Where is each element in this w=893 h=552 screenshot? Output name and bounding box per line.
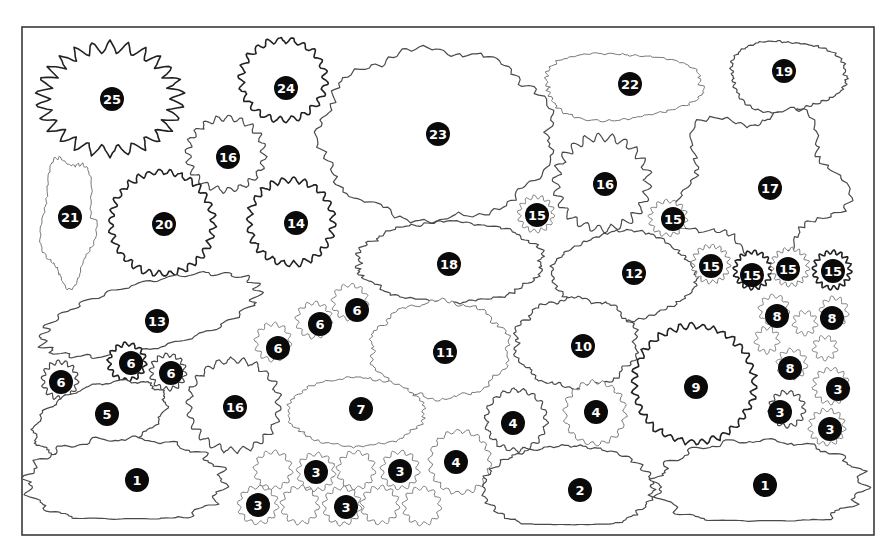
plant-marker-6e: 6 [159,361,183,385]
plant-number-label: 21 [61,210,79,225]
plant-marker-3d: 3 [388,459,412,483]
plant-outline-3a [253,450,293,490]
plant-marker-2: 2 [568,478,592,502]
plant-marker-19: 19 [772,59,796,83]
plant-number-label: 22 [621,77,639,92]
plant-marker-6a: 6 [345,298,369,322]
plant-number-label: 11 [436,345,454,360]
plant-number-label: 24 [277,81,295,96]
garden-plan-diagram: 2524162120142322191617151518121515151513… [0,0,893,552]
plant-number-label: 20 [155,217,173,232]
plant-outline-3h [360,485,400,525]
plant-number-label: 15 [528,208,546,223]
plant-marker-16a: 16 [216,145,240,169]
plant-number-label: 9 [691,380,700,395]
plant-number-label: 15 [702,259,720,274]
plant-number-label: 2 [575,483,584,498]
plant-outline-2 [482,445,656,525]
plant-number-label: 15 [664,212,682,227]
plant-marker-5: 5 [95,402,119,426]
plant-marker-3r3: 3 [818,417,842,441]
plant-marker-3r2: 3 [768,400,792,424]
plant-number-label: 16 [596,177,614,192]
plant-marker-6c: 6 [266,336,290,360]
plant-number-label: 7 [356,402,365,417]
plant-number-label: 10 [574,339,592,354]
plant-marker-25: 25 [100,87,124,111]
plant-marker-1a: 1 [125,468,149,492]
plant-number-label: 8 [785,361,794,376]
plant-marker-23: 23 [426,122,450,146]
plant-number-label: 3 [395,464,404,479]
plant-number-label: 16 [219,150,237,165]
plant-outline-empty-a [792,311,818,336]
plant-marker-13: 13 [145,309,169,333]
plant-marker-15f: 15 [821,259,845,283]
plant-marker-7: 7 [349,397,373,421]
plant-outline-3i [402,486,442,526]
plant-number-label: 13 [148,314,166,329]
plant-number-label: 4 [508,416,517,431]
plant-number-label: 4 [591,405,600,420]
plant-marker-11: 11 [433,340,457,364]
plant-number-label: 3 [825,422,834,437]
plant-marker-15d: 15 [740,263,764,287]
plant-marker-10: 10 [571,334,595,358]
plant-marker-17: 17 [758,176,782,200]
plant-number-label: 3 [311,465,320,480]
plant-marker-6f: 6 [49,370,73,394]
plant-number-label: 6 [126,356,135,371]
plant-number-label: 14 [287,216,305,231]
plant-number-label: 1 [132,473,141,488]
plant-marker-9: 9 [684,375,708,399]
plant-marker-16c: 16 [223,395,247,419]
plant-marker-3r1: 3 [826,377,850,401]
plant-marker-16b: 16 [593,172,617,196]
plant-marker-4b: 4 [584,400,608,424]
plant-marker-8c: 8 [778,356,802,380]
plant-number-label: 15 [743,268,761,283]
plant-number-label: 12 [625,266,643,281]
plant-marker-15c: 15 [699,254,723,278]
plant-number-label: 23 [429,127,447,142]
plant-marker-1b: 1 [753,473,777,497]
plant-marker-14: 14 [284,211,308,235]
plant-number-label: 15 [824,264,842,279]
plant-number-label: 6 [273,341,282,356]
plant-number-label: 25 [103,92,121,107]
plant-outline-3c [336,450,376,490]
plant-outline-empty-b [754,326,780,354]
plant-number-label: 3 [775,405,784,420]
plant-marker-15b: 15 [661,207,685,231]
plant-marker-6d: 6 [119,351,143,375]
plant-marker-3b: 3 [304,460,328,484]
plant-marker-22: 22 [618,72,642,96]
plant-marker-4a: 4 [501,411,525,435]
plant-marker-4c: 4 [444,450,468,474]
plant-number-label: 6 [352,303,361,318]
plant-number-label: 3 [341,500,350,515]
plant-marker-21: 21 [58,205,82,229]
plant-marker-12: 12 [622,261,646,285]
plant-number-label: 6 [315,317,324,332]
plant-marker-15e: 15 [776,257,800,281]
plant-number-label: 16 [226,400,244,415]
plant-marker-18: 18 [437,252,461,276]
plant-number-label: 3 [833,382,842,397]
plant-number-label: 18 [440,257,458,272]
plant-number-label: 3 [253,498,262,513]
plant-number-label: 6 [166,366,175,381]
plant-number-label: 5 [102,407,111,422]
plant-marker-6b: 6 [308,312,332,336]
plant-number-label: 8 [827,311,836,326]
plant-marker-24: 24 [274,76,298,100]
plant-marker-20: 20 [152,212,176,236]
plant-marker-3e: 3 [246,493,270,517]
plant-number-label: 19 [775,64,793,79]
plant-number-label: 15 [779,262,797,277]
plant-marker-15a: 15 [525,203,549,227]
plant-number-label: 17 [761,181,779,196]
plant-number-label: 4 [451,455,460,470]
plant-marker-8b: 8 [820,306,844,330]
plant-number-label: 6 [56,375,65,390]
